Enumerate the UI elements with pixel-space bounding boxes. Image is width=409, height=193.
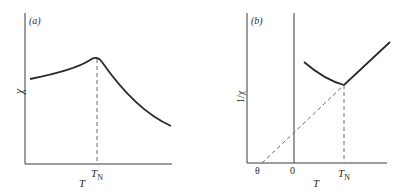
panel-b-ylabel: 1/χ (235, 90, 246, 103)
panel-a-tn-label: TN (91, 167, 103, 182)
panel-b-tn-label: TN (338, 167, 350, 182)
panel-a-susceptibility-curve (30, 58, 171, 126)
panel-b-inverse-susceptibility-curve (304, 42, 390, 85)
panel-b-extrapolation-dashed-line (262, 85, 344, 163)
panel-b-theta-label: θ (255, 165, 260, 176)
panel-b: (b) 1/χ θ 0 TN T (235, 13, 390, 189)
panel-b-tag: (b) (251, 15, 263, 27)
panel-a-xlabel: T (79, 177, 86, 189)
panel-a: (a) χ TN T (12, 13, 172, 189)
figure-canvas: (a) χ TN T (b) 1/χ θ 0 TN T (0, 0, 409, 193)
panel-b-zero-label: 0 (290, 165, 295, 176)
panel-a-tag: (a) (29, 15, 41, 27)
panel-a-ylabel: χ (12, 88, 26, 95)
panel-b-xlabel: T (313, 177, 320, 189)
